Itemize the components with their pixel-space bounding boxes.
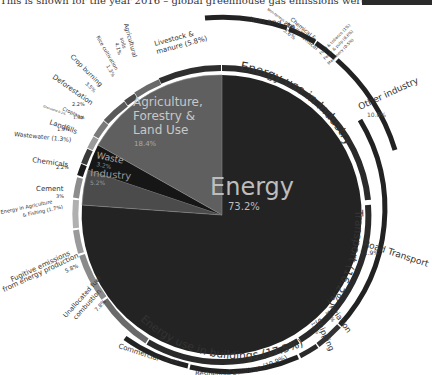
label-cropland-pct: 1.4% <box>73 115 85 120</box>
ring-cropland[interactable] <box>90 138 96 149</box>
label-cement-pct: 3% <box>56 193 64 199</box>
label-afolu-2: Forestry & <box>133 109 195 123</box>
label-road-transport-pct: 11.9% <box>360 249 379 256</box>
label-afolu-1: Agriculture, <box>133 95 203 109</box>
ring-wastewater[interactable] <box>80 165 84 176</box>
label-energy: Energy <box>210 173 294 201</box>
label-industry-pct: 5.2% <box>90 179 106 186</box>
ring-cement[interactable] <box>75 200 76 228</box>
label-afolu-pct: 18.4% <box>134 140 157 148</box>
ring-landfills[interactable] <box>84 150 90 164</box>
label-energy-pct: 73.2% <box>228 201 260 212</box>
label-iron-steel: Iron and steel (7.2%) <box>0 0 296 31</box>
label-deforestation-pct: 2.2% <box>72 101 85 107</box>
label-afolu-3: Land Use <box>133 123 189 137</box>
label-landfills-pct: 1.9% <box>57 126 70 132</box>
sunburst-chart: Energy 73.2% Agriculture, Forestry & Lan… <box>0 0 432 375</box>
ring-energy-agri[interactable] <box>76 230 81 253</box>
label-cement: Cement <box>36 185 64 193</box>
label-other-industry-pct: 10.6% <box>367 111 386 118</box>
ring-chemicals[interactable] <box>76 178 80 198</box>
inner-pie <box>82 75 362 355</box>
label-chemicals-pct: 2.2% <box>56 164 69 170</box>
